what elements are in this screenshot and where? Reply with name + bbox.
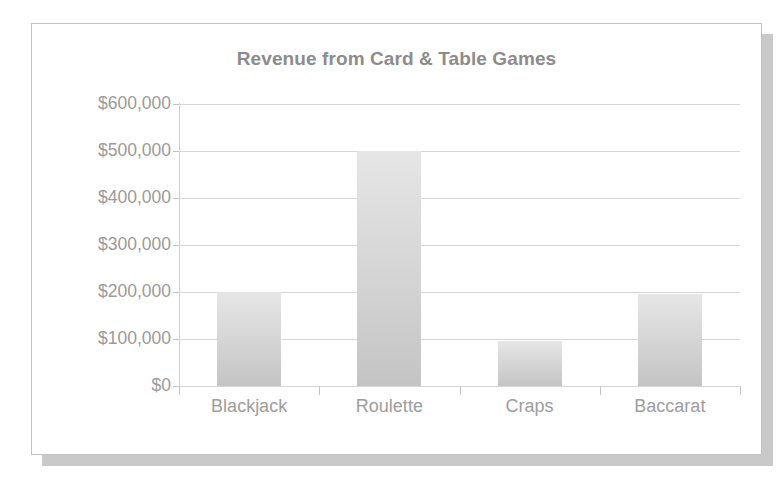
y-axis-tick: [173, 292, 179, 293]
chart-card: Revenue from Card & Table Games $600,000…: [31, 23, 762, 455]
gridline: [179, 198, 740, 199]
slide-canvas: Revenue from Card & Table Games $600,000…: [0, 0, 784, 486]
y-axis-tick-label: $0: [51, 375, 171, 396]
bar-baccarat[interactable]: [638, 294, 702, 386]
chart-title: Revenue from Card & Table Games: [32, 48, 761, 70]
y-axis-tick: [173, 198, 179, 199]
bar-craps[interactable]: [498, 341, 562, 386]
x-axis-category-label: Baccarat: [600, 396, 740, 417]
y-axis-tick-label: $100,000: [51, 328, 171, 349]
gridline: [179, 151, 740, 152]
x-axis-category-labels: BlackjackRouletteCrapsBaccarat: [179, 396, 740, 430]
y-axis-tick: [173, 151, 179, 152]
x-axis-tick: [460, 386, 461, 395]
x-axis-tick: [740, 386, 741, 395]
bar-blackjack[interactable]: [217, 292, 281, 386]
plot-area: [179, 104, 740, 386]
y-axis-tick: [173, 339, 179, 340]
gridline: [179, 245, 740, 246]
y-axis-tick-label: $400,000: [51, 187, 171, 208]
x-axis-tick: [319, 386, 320, 395]
y-axis-tick: [173, 245, 179, 246]
gridline: [179, 104, 740, 105]
x-axis-category-label: Roulette: [319, 396, 459, 417]
y-axis-tick: [173, 104, 179, 105]
y-axis-tick-label: $300,000: [51, 234, 171, 255]
x-axis-category-label: Craps: [460, 396, 600, 417]
y-axis-tick-label: $200,000: [51, 281, 171, 302]
x-axis-tick: [179, 386, 180, 395]
x-axis-tick: [600, 386, 601, 395]
y-axis-tick-label: $500,000: [51, 140, 171, 161]
y-axis-tick-labels: $600,000$500,000$400,000$300,000$200,000…: [40, 104, 171, 386]
x-axis-category-label: Blackjack: [179, 396, 319, 417]
bar-roulette[interactable]: [357, 151, 421, 386]
y-axis-tick-label: $600,000: [51, 93, 171, 114]
